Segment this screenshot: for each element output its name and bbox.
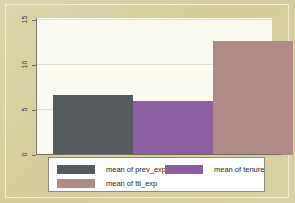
legend-swatch-tenure xyxy=(165,165,203,174)
ytick-label-10: 10 xyxy=(21,57,28,73)
ytick-label-5: 5 xyxy=(21,102,28,118)
legend-label-prev-exp: mean of prev_exp xyxy=(106,165,166,174)
bar-chart-screenshot: 15 10 5 0 mean of prev_exp mean of tenur… xyxy=(0,0,295,203)
legend-label-tenure: mean of tenure xyxy=(214,165,264,174)
ytick-label-15: 15 xyxy=(21,12,28,28)
bar-ttl-exp[interactable] xyxy=(213,41,293,155)
legend-entry-ttl-exp[interactable]: mean of ttl_exp xyxy=(57,177,157,190)
bars-layer xyxy=(37,18,272,155)
bar-prev-exp[interactable] xyxy=(53,95,133,155)
legend-entry-tenure[interactable]: mean of tenure xyxy=(165,163,264,176)
ytick-label-0: 0 xyxy=(21,147,28,163)
ytick-mark-0 xyxy=(32,155,36,156)
legend-swatch-prev-exp xyxy=(57,165,95,174)
x-axis-line xyxy=(36,154,281,155)
legend-label-ttl-exp: mean of ttl_exp xyxy=(106,179,157,188)
bar-tenure[interactable] xyxy=(133,101,213,155)
legend-swatch-ttl-exp xyxy=(57,179,95,188)
legend-entry-prev-exp[interactable]: mean of prev_exp xyxy=(57,163,166,176)
legend: mean of prev_exp mean of tenure mean of … xyxy=(48,157,265,192)
